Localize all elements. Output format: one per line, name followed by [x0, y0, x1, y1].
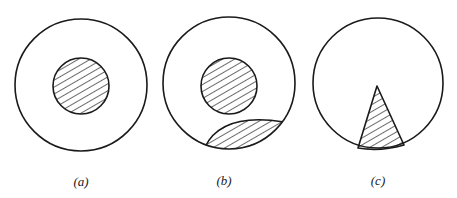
figure-label: (c) — [371, 173, 385, 188]
hatched-triangle-wedge — [358, 86, 404, 149]
figure-b: (b) — [163, 17, 295, 188]
figure-a: (a) — [15, 19, 147, 189]
figure-label: (b) — [216, 173, 231, 188]
hatched-center-disk — [53, 58, 109, 114]
hatched-center-disk — [201, 58, 257, 114]
hatched-lens-segment — [205, 120, 284, 152]
figure-c: (c) — [313, 18, 443, 188]
diagram-canvas: (a) (b) (c) — [0, 0, 457, 198]
figure-label: (a) — [73, 174, 88, 189]
